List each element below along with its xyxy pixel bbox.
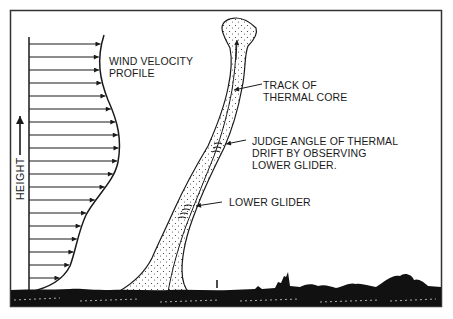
track-label-line1: TRACK OF — [263, 79, 317, 91]
thermal-drift-diagram — [0, 0, 453, 319]
leader-lower-glider — [196, 202, 222, 206]
judge-label-line2: DRIFT BY OBSERVING — [252, 147, 366, 159]
judge-label-line1: JUDGE ANGLE OF THERMAL — [252, 135, 398, 147]
wind-profile-label-line2: PROFILE — [109, 67, 155, 79]
wind-profile-label-line1: WIND VELOCITY — [109, 55, 193, 67]
wind-arrows-group — [29, 44, 118, 278]
diagram-frame — [11, 11, 442, 307]
leader-judge — [226, 140, 246, 144]
lower-glider-label: LOWER GLIDER — [229, 196, 311, 208]
ground-silhouette — [11, 272, 441, 306]
wind-profile-curve — [29, 35, 120, 292]
judge-label-line3: LOWER GLIDER. — [252, 159, 337, 171]
height-axis-label: HEIGHT — [14, 157, 26, 200]
track-label-line2: THERMAL CORE — [263, 91, 347, 103]
